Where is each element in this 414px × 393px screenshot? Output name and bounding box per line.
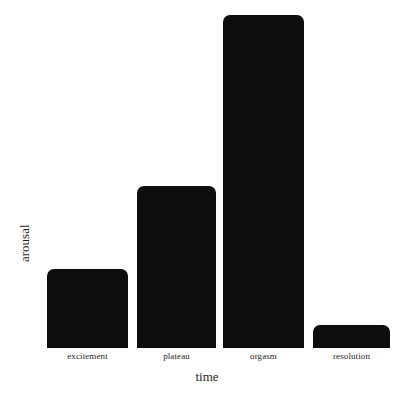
bar-excitement — [47, 269, 128, 348]
x-tick-label-orgasm: orgasm — [223, 350, 304, 362]
bar-resolution — [313, 325, 390, 348]
y-axis-title: arousal — [18, 248, 74, 262]
x-tick-label-excitement: excitement — [47, 350, 128, 362]
bar-plateau — [137, 186, 216, 348]
x-axis-title: time — [0, 369, 414, 385]
bar-chart: excitement plateau orgasm resolution tim… — [0, 0, 414, 393]
bar-orgasm — [223, 15, 304, 348]
x-tick-label-plateau: plateau — [137, 350, 216, 362]
x-tick-label-resolution: resolution — [313, 350, 390, 362]
plot-area — [0, 0, 414, 348]
